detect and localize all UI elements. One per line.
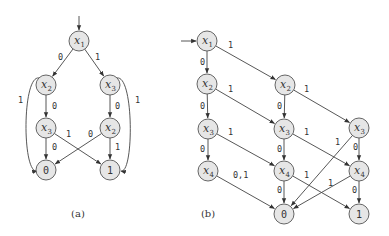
- edge-m7-u0: [217, 176, 275, 209]
- edge-label: 0: [88, 129, 93, 139]
- edge-label: 1: [228, 127, 233, 137]
- edge-n5-t0: [55, 133, 101, 163]
- svg-text:3: 3: [210, 129, 214, 137]
- svg-text:1: 1: [81, 41, 85, 49]
- edge-label: 0: [58, 52, 63, 62]
- variable-node: x4: [198, 161, 218, 181]
- terminal-node-0: 0: [274, 204, 294, 224]
- edge-label: 0: [52, 101, 57, 111]
- edge-label: 1: [66, 129, 71, 139]
- variable-node: x4: [349, 161, 369, 181]
- caption-b: (b): [201, 208, 215, 219]
- svg-text:3: 3: [48, 128, 52, 136]
- edge-label: 0: [353, 142, 358, 152]
- terminal-node-0: 0: [36, 160, 56, 180]
- svg-text:1: 1: [107, 165, 113, 176]
- variable-node: x3: [198, 119, 218, 139]
- edge-label: 1: [95, 52, 100, 62]
- svg-text:2: 2: [209, 84, 213, 92]
- svg-text:2: 2: [48, 85, 52, 93]
- captions-layer: (a)(b): [71, 208, 215, 219]
- edge-labels-layer: 01010101010101010101100,10110: [18, 40, 358, 195]
- variable-node: x3: [36, 118, 56, 138]
- svg-text:2: 2: [287, 85, 291, 93]
- variable-node: x2: [36, 75, 56, 95]
- edge-label: 0: [277, 185, 282, 195]
- edge-m2-m4: [207, 94, 208, 118]
- svg-text:0: 0: [43, 165, 49, 176]
- variable-node: x1: [69, 31, 89, 51]
- edge-m6-u0: [291, 136, 352, 206]
- caption-a: (a): [71, 208, 85, 219]
- svg-text:3: 3: [112, 85, 116, 93]
- edge-label: 0,1: [233, 170, 248, 180]
- edge-m3-m5: [284, 95, 285, 118]
- bdd-figure: 01010101010101010101100,10110 x1x2x3x3x2…: [0, 0, 389, 236]
- svg-text:1: 1: [209, 41, 213, 49]
- svg-text:4: 4: [210, 171, 215, 179]
- edge-label: 1: [335, 137, 340, 147]
- svg-text:3: 3: [361, 128, 365, 136]
- edge-label: 1: [304, 127, 309, 137]
- variable-node: x2: [197, 74, 217, 94]
- edge-m1-m3: [216, 46, 276, 80]
- variable-node: x4: [274, 161, 294, 181]
- edge-label: 1: [135, 95, 140, 105]
- edge-label: 1: [228, 84, 233, 94]
- edge-m5-m9: [293, 134, 350, 166]
- terminal-node-1: 1: [349, 204, 369, 224]
- edge-label: 1: [328, 178, 333, 188]
- svg-text:0: 0: [281, 209, 287, 220]
- variable-node: x3: [349, 118, 369, 138]
- edge-label: 0: [52, 142, 57, 152]
- svg-text:1: 1: [356, 209, 362, 220]
- svg-text:2: 2: [112, 128, 116, 136]
- edge-n4-t1: [54, 133, 100, 163]
- edge-m3-m6: [294, 90, 350, 122]
- svg-text:3: 3: [286, 129, 290, 137]
- edge-label: 0: [200, 144, 205, 154]
- edge-label: 1: [18, 95, 23, 105]
- edge-m4-m8: [217, 134, 275, 166]
- svg-text:4: 4: [286, 171, 291, 179]
- edge-m2-m5: [216, 89, 275, 123]
- edge-label: 0: [200, 101, 205, 111]
- variable-node: x2: [275, 75, 295, 95]
- edge-label: 0: [200, 57, 205, 67]
- edge-label: 1: [304, 170, 309, 180]
- svg-text:4: 4: [361, 171, 366, 179]
- variable-node: x3: [100, 75, 120, 95]
- edge-label: 0: [277, 101, 282, 111]
- edge-label: 1: [228, 40, 233, 50]
- variable-node: x3: [274, 119, 294, 139]
- edge-label: 0: [115, 101, 120, 111]
- variable-node: x2: [100, 118, 120, 138]
- variable-node: x1: [197, 31, 217, 51]
- edge-label: 1: [115, 142, 120, 152]
- edge-label: 1: [304, 84, 309, 94]
- edge-label: 0: [352, 185, 357, 195]
- terminal-node-1: 1: [100, 160, 120, 180]
- edge-label: 0: [277, 144, 282, 154]
